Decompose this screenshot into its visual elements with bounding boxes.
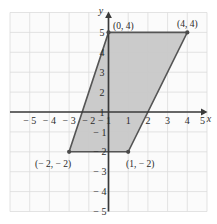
y-tick-label-neg1: − 1	[93, 127, 106, 138]
y-tick-label-neg5: − 5	[93, 206, 106, 217]
x-tick-label-neg5: − 5	[23, 115, 36, 126]
vertex-label-bottom-left: (− 2, − 2)	[35, 159, 71, 170]
x-tick-label-1: 1	[126, 115, 131, 126]
y-tick-label-4: 4	[100, 47, 105, 58]
x-tick-label-neg3: − 3	[63, 115, 76, 126]
y-axis-label: y	[98, 5, 104, 16]
x-tick-label-neg2: − 2	[82, 115, 95, 126]
coordinate-plane-figure: − 5 − 4 − 3 − 2 − 1 1 2 3 4 5 5 4 3 2 1 …	[0, 0, 217, 224]
y-tick-label-neg4: − 4	[93, 186, 106, 197]
y-tick-label-neg3: − 3	[93, 166, 106, 177]
vertex-label-bottom-right: (1, − 2)	[126, 159, 154, 170]
x-tick-label-2: 2	[145, 115, 150, 126]
vertex-label-top-left: (0, 4)	[113, 21, 134, 32]
vertex-dot-0-4	[106, 30, 110, 34]
y-tick-label-neg2: − 2	[93, 146, 106, 157]
vertex-dot-neg2-neg2	[67, 150, 71, 154]
vertex-dot-4-4	[185, 30, 189, 34]
x-tick-label-5: 5	[200, 115, 205, 126]
y-tick-label-3: 3	[100, 67, 105, 78]
vertex-dot-1-neg2	[126, 150, 130, 154]
y-tick-label-2: 2	[100, 87, 105, 98]
x-tick-label-3: 3	[165, 115, 170, 126]
x-tick-label-4: 4	[185, 115, 190, 126]
y-tick-label-5: 5	[100, 27, 105, 38]
coordinate-plane-svg: − 5 − 4 − 3 − 2 − 1 1 2 3 4 5 5 4 3 2 1 …	[0, 0, 217, 224]
x-tick-label-neg4: − 4	[43, 115, 56, 126]
x-axis-label: x	[206, 113, 212, 124]
vertex-label-top-right: (4, 4)	[177, 19, 198, 30]
y-tick-label-1: 1	[100, 107, 105, 118]
